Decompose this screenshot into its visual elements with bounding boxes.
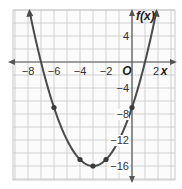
x-tick-label: −2 xyxy=(100,65,113,77)
y-tick-label: −12 xyxy=(110,134,129,146)
data-point xyxy=(103,157,108,162)
y-tick-label: −8 xyxy=(116,108,129,120)
x-axis-label: x xyxy=(160,64,169,78)
x-tick-label: −8 xyxy=(22,65,35,77)
x-axis-left-arrow-icon xyxy=(8,59,15,65)
x-tick-label: −4 xyxy=(74,65,87,77)
data-point xyxy=(77,157,82,162)
x-tick-label: −6 xyxy=(48,65,61,77)
x-tick-label: 2 xyxy=(153,65,159,77)
data-point xyxy=(90,163,95,168)
y-tick-label: −16 xyxy=(110,160,129,172)
data-point xyxy=(51,105,56,110)
y-tick-label: −4 xyxy=(116,82,129,94)
data-point xyxy=(129,105,134,110)
parabola-chart: −8−6−4−224−4−8−12−16Oxf(x) xyxy=(0,0,182,189)
origin-label: O xyxy=(122,64,132,78)
y-axis-label: f(x) xyxy=(136,9,155,23)
y-tick-label: 4 xyxy=(123,30,129,42)
